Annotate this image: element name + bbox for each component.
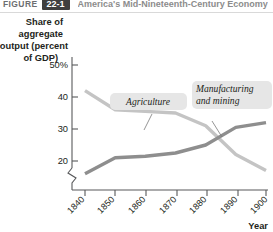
x-axis-title: Year [248,221,268,231]
y-axis-break-mark [68,168,76,190]
figure-number-badge: 22-1 [42,0,70,10]
series-line-manufacturing-and-mining [85,123,266,174]
y-axis-title-line-2: aggregate [19,29,63,39]
x-tick-label-1850: 1850 [95,194,116,215]
manufacturing-label-line-2: and mining [196,95,240,106]
agriculture-leader-line [144,114,152,130]
x-tick-label-1880: 1880 [187,194,208,215]
figure-word: FIGURE [0,0,38,9]
manufacturing-label-line-1: Manufacturing [195,83,254,94]
y-tick-label-40: 40 [58,92,68,102]
x-tick-label-1900: 1900 [248,194,269,215]
line-chart-svg: Share of aggregate output (percent of GD… [0,13,273,232]
y-axis-title-line-1: Share of [26,17,64,27]
x-tick-label-1840: 1840 [65,194,86,215]
y-tick-label-30: 30 [58,124,68,134]
chart-area: Share of aggregate output (percent of GD… [0,13,273,232]
x-tick-label-1890: 1890 [218,194,239,215]
x-tick-label-1870: 1870 [157,194,178,215]
x-tick-label-1860: 1860 [126,194,147,215]
figure-container: FIGURE 22-1 America's Mid-Nineteenth-Cen… [0,0,273,232]
figure-header: FIGURE 22-1 America's Mid-Nineteenth-Cen… [0,0,273,12]
y-tick-label-50: 50% [49,60,68,70]
y-tick-label-20: 20 [58,156,68,166]
agriculture-label: Agriculture [125,96,171,107]
figure-title: America's Mid-Nineteenth-Century Economy [78,0,268,9]
y-axis-title-line-3: output (percent [0,41,68,51]
